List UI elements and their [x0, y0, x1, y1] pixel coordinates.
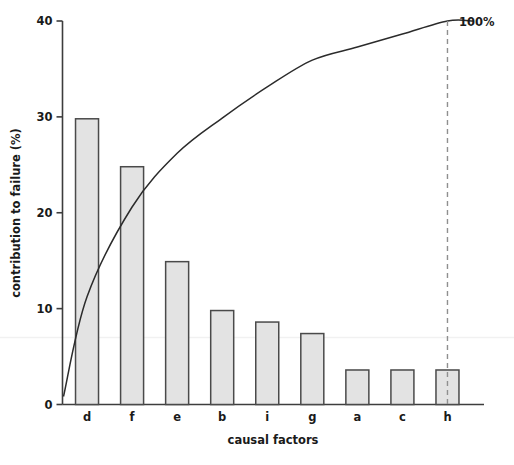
y-axis-title: contribution to failure (%) [9, 128, 23, 298]
bar-group [76, 119, 459, 405]
pareto-chart-svg: 010203040 100% dfebigach causal factors … [0, 0, 514, 465]
cumulative-end-label: 100% [459, 15, 495, 29]
category-label-g: g [308, 410, 316, 424]
pareto-chart: 010203040 100% dfebigach causal factors … [0, 0, 514, 465]
bar-i [256, 322, 279, 404]
x-axis-title: causal factors [228, 433, 319, 447]
category-label-d: d [83, 410, 91, 424]
y-axis-ticks [57, 21, 63, 405]
y-axis-tick-labels: 010203040 [36, 14, 52, 412]
category-label-i: i [265, 410, 269, 424]
y-axis-tick-label: 0 [44, 398, 52, 412]
category-label-f: f [130, 410, 136, 424]
bar-c [391, 370, 414, 405]
category-label-e: e [173, 410, 181, 424]
bar-b [211, 311, 234, 405]
category-label-h: h [443, 410, 451, 424]
category-labels: dfebigach [83, 410, 452, 424]
bar-f [121, 167, 144, 405]
y-axis-tick-label: 30 [36, 110, 52, 124]
bar-d [76, 119, 99, 405]
y-axis-tick-label: 20 [36, 206, 52, 220]
category-label-c: c [399, 410, 406, 424]
y-axis-tick-label: 40 [36, 14, 52, 28]
bar-g [301, 334, 324, 405]
category-label-b: b [218, 410, 226, 424]
bar-a [346, 370, 369, 405]
y-axis-tick-label: 10 [36, 302, 52, 316]
category-label-a: a [353, 410, 361, 424]
bar-e [166, 262, 189, 405]
